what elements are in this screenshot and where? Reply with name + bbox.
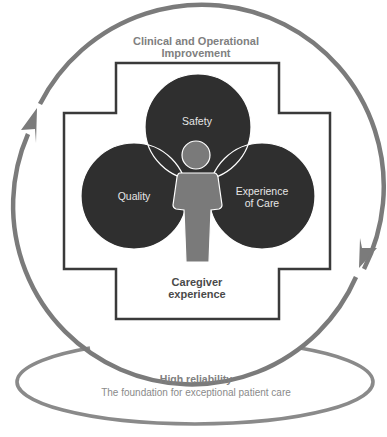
top-label-line2: Improvement (161, 47, 230, 59)
caregiver-label-line2: experience (168, 288, 225, 300)
experience-label-line2: of Care (245, 197, 280, 209)
arrow-up-icon (21, 108, 37, 143)
foundation-title: High reliability (160, 373, 233, 385)
safety-label: Safety (182, 115, 213, 127)
top-label-line1: Clinical and Operational (133, 35, 259, 47)
experience-label-line1: Experience (236, 185, 289, 197)
quality-label: Quality (118, 190, 151, 202)
foundation-subtitle: The foundation for exceptional patient c… (101, 387, 291, 398)
caregiver-label-line1: Caregiver (172, 276, 223, 288)
high-reliability-diagram: Clinical and Operational Improvement Saf… (0, 0, 387, 437)
